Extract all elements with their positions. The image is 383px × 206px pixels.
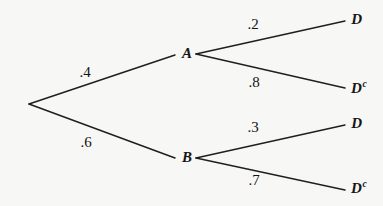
node-d2-text: D: [351, 115, 362, 131]
node-dc1-text: D: [351, 80, 362, 96]
probability-label-b-to-d: .3: [247, 120, 258, 135]
node-label-d-from-b: D: [351, 116, 362, 131]
node-label-d-from-a: D: [351, 12, 362, 27]
tree-edges-svg: [0, 0, 383, 206]
node-dc2-superscript: c: [363, 179, 367, 189]
probability-label-b-to-dc: .7: [248, 173, 259, 188]
probability-label-a-to-dc: .8: [248, 75, 259, 90]
probability-label-root-to-b: .6: [80, 135, 91, 150]
probability-label-a-to-d: .2: [247, 17, 258, 32]
node-label-dc-from-a: Dc: [351, 81, 367, 96]
node-d1-text: D: [351, 11, 362, 27]
node-label-b: B: [182, 150, 192, 165]
edge-root-to-a: [29, 55, 175, 104]
edge-b-to-dc: [196, 158, 345, 190]
node-label-dc-from-b: Dc: [351, 181, 367, 196]
node-b-text: B: [182, 149, 192, 165]
node-dc1-superscript: c: [363, 79, 367, 89]
probability-tree-diagram: A B D Dc D Dc .4 .6 .2 .8 .3 .7: [0, 0, 383, 206]
edge-a-to-dc: [196, 54, 345, 88]
probability-label-root-to-a: .4: [79, 65, 90, 80]
node-a-text: A: [182, 45, 192, 61]
edge-b-to-d: [196, 125, 345, 158]
edge-root-to-b: [29, 104, 175, 158]
node-label-a: A: [182, 46, 192, 61]
edge-a-to-d: [196, 21, 345, 54]
node-dc2-text: D: [351, 180, 362, 196]
